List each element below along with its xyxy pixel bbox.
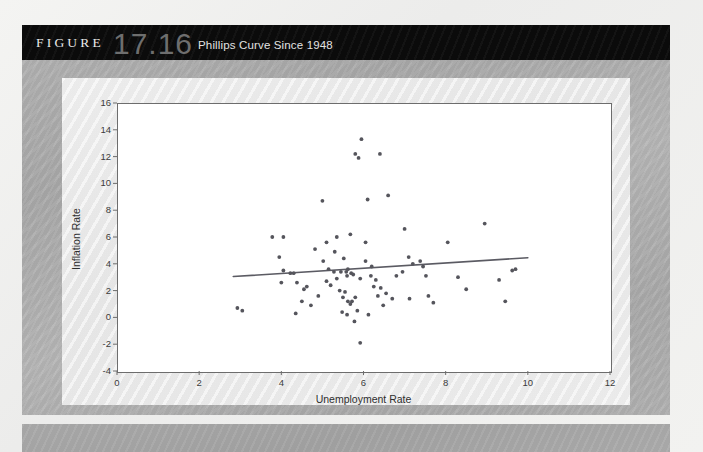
figure-number: 17.16: [113, 29, 193, 59]
figure-caption: Phillips Curve Since 1948: [198, 39, 333, 51]
y-tick-label: 0: [81, 311, 111, 322]
figure-footer-band: [22, 424, 670, 452]
figure-root: FIGURE 17.16 Phillips Curve Since 1948 0…: [0, 0, 703, 452]
x-tick-label: 6: [352, 377, 376, 388]
x-tick-label: 4: [269, 377, 293, 388]
y-tick-label: -4: [81, 365, 111, 376]
figure-title-group: FIGURE 17.16 Phillips Curve Since 1948: [36, 25, 333, 60]
x-axis-title: Unemployment Rate: [309, 393, 419, 405]
y-tick-label: 8: [81, 204, 111, 215]
y-tick-label: 10: [81, 177, 111, 188]
x-tick-label: 2: [187, 377, 211, 388]
y-tick-label: -2: [81, 338, 111, 349]
y-tick-label: 14: [81, 124, 111, 135]
figure-title-bar: FIGURE 17.16 Phillips Curve Since 1948: [22, 25, 670, 60]
y-tick-label: 4: [81, 258, 111, 269]
x-tick-label: 8: [434, 377, 458, 388]
y-tick-label: 2: [81, 285, 111, 296]
plot-canvas: [117, 103, 612, 373]
figure-label: FIGURE: [36, 35, 104, 51]
x-tick-label: 0: [105, 377, 129, 388]
y-tick-label: 6: [81, 231, 111, 242]
y-tick-label: 12: [81, 151, 111, 162]
y-tick-label: 16: [81, 97, 111, 108]
y-axis-title: Inflation Rate: [70, 208, 82, 270]
x-tick-label: 12: [598, 377, 622, 388]
x-tick-label: 10: [516, 377, 540, 388]
